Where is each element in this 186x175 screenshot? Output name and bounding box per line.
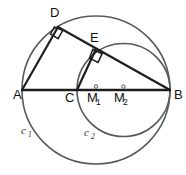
point-label-m1-subscript: 1 [96,97,101,107]
center-dot-m2 [122,85,125,88]
point-label-c: C [65,90,74,105]
circle-label-c1-subscript: 1 [28,130,32,139]
point-label-b: B [174,87,183,102]
segment-ad [22,27,58,90]
circle-label-c2: c [84,126,89,138]
geometry-figure: A B C D E M 1 M 2 c 1 c 2 [0,0,186,175]
segment-db [58,27,170,90]
point-label-d: D [50,5,59,20]
circle-label-c1: c [21,124,26,136]
point-label-e: E [90,30,99,45]
geometry-canvas: A B C D E M 1 M 2 c 1 c 2 [0,0,186,175]
circle-label-c2-subscript: 2 [91,132,95,141]
segment-ce [77,50,96,90]
point-label-m2-subscript: 2 [123,97,128,107]
center-dot-m1 [94,85,97,88]
point-label-a: A [13,87,22,102]
